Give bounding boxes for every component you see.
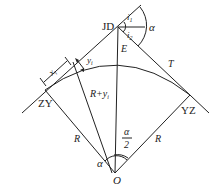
yi-leader <box>77 60 84 69</box>
label-half-alpha-den: 2 <box>124 139 129 150</box>
label-alpha-bottom: α <box>97 157 103 169</box>
label-yz: YZ <box>181 104 196 116</box>
label-r-left: R <box>73 133 80 144</box>
label-xi: xi <box>46 66 59 79</box>
bisector-line <box>115 27 118 173</box>
xi-tick-left <box>40 78 46 86</box>
label-o: O <box>113 174 121 186</box>
label-r-right: R <box>154 133 161 144</box>
radius-left <box>45 90 115 173</box>
xi-tick-right <box>65 57 71 65</box>
label-alpha-top: α <box>149 21 155 33</box>
label-zy: ZY <box>38 97 53 109</box>
label-half-alpha-num: α <box>124 126 130 137</box>
label-t: T <box>168 58 175 69</box>
label-jd: JD <box>102 20 114 32</box>
o-alpha-arc <box>105 156 127 161</box>
radial-line-point-i <box>73 62 112 173</box>
label-i2: i2 <box>127 30 133 41</box>
curve-diagram: JD i1 i2 α E T xi yi R+yi ZY YZ R R α 2 … <box>0 0 212 188</box>
label-yi: yi <box>86 55 93 66</box>
label-r-plus-y: R+yi <box>89 88 109 100</box>
label-e: E <box>120 43 127 54</box>
